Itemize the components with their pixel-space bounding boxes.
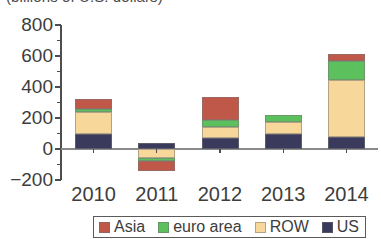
bar-segment-row[interactable] (75, 112, 112, 134)
bar-segment-euro-area[interactable] (265, 115, 302, 122)
legend-item[interactable]: ROW (255, 218, 309, 236)
bar-segment-euro-area[interactable] (75, 109, 112, 111)
y-axis-tick (55, 24, 61, 25)
legend-label: ROW (270, 218, 309, 236)
y-axis-tick (55, 86, 61, 87)
legend-swatch-icon (322, 222, 333, 233)
bar-segment-us[interactable] (202, 138, 239, 149)
legend-item[interactable]: Asia (99, 218, 145, 236)
y-axis-tick-label: 600 (21, 45, 53, 67)
bar-segment-euro-area[interactable] (328, 61, 365, 80)
bar-segment-row[interactable] (265, 122, 302, 134)
legend-item[interactable]: euro area (158, 218, 242, 236)
x-axis-tick-label: 2013 (261, 183, 306, 206)
chart-legend: Asiaeuro areaROWUS (93, 216, 366, 238)
chart-title: (billions of U.S. dollars) (6, 0, 163, 5)
legend-swatch-icon (158, 222, 169, 233)
y-axis-tick-label: 0 (42, 138, 53, 160)
bar-group[interactable] (202, 25, 239, 180)
y-axis-tick-label: −200 (10, 169, 53, 191)
legend-label: euro area (173, 218, 242, 236)
bar-group[interactable] (328, 25, 365, 180)
y-axis-tick (55, 148, 61, 149)
y-axis-tick (55, 179, 61, 180)
y-axis-minor-tick (57, 40, 61, 41)
y-axis-minor-tick (57, 164, 61, 165)
bar-segment-us[interactable] (75, 134, 112, 149)
bar-group[interactable] (265, 25, 302, 180)
bar-segment-us[interactable] (265, 134, 302, 150)
x-axis-tick (219, 149, 220, 153)
legend-swatch-icon (99, 222, 110, 233)
x-axis-tick (93, 149, 94, 153)
y-axis-minor-tick (57, 133, 61, 134)
bar-segment-row[interactable] (202, 127, 239, 139)
legend-item[interactable]: US (322, 218, 359, 236)
bar-segment-euro-area[interactable] (202, 120, 239, 127)
bar-segment-asia[interactable] (75, 99, 112, 109)
y-axis-labels: 8006004002000−200 (0, 25, 53, 180)
bar-segment-asia[interactable] (138, 161, 175, 170)
chart-figure: (billions of U.S. dollars) 8006004002000… (0, 0, 381, 239)
plot-area (62, 25, 378, 180)
x-axis-tick (156, 149, 157, 153)
y-axis-minor-tick (57, 71, 61, 72)
x-axis-tick (346, 149, 347, 153)
x-axis-tick-label: 2011 (135, 183, 178, 206)
bar-segment-asia[interactable] (328, 54, 365, 61)
x-axis-tick (283, 149, 284, 153)
y-axis-minor-tick (57, 102, 61, 103)
legend-swatch-icon (255, 222, 266, 233)
x-axis-tick-label: 2012 (198, 183, 243, 206)
x-axis-labels: 20102011201220132014 (62, 183, 378, 207)
legend-label: Asia (114, 218, 145, 236)
bar-segment-us[interactable] (328, 137, 365, 149)
x-axis-tick-label: 2014 (324, 183, 369, 206)
y-axis-tick (55, 117, 61, 118)
bar-segment-row[interactable] (328, 80, 365, 137)
y-axis-tick (55, 55, 61, 56)
legend-label: US (337, 218, 359, 236)
bar-group[interactable] (138, 25, 175, 180)
bar-segment-asia[interactable] (202, 97, 239, 119)
y-axis-tick-label: 800 (21, 14, 53, 36)
x-axis-tick-label: 2010 (71, 183, 116, 206)
y-axis-tick-label: 400 (21, 76, 53, 98)
bar-group[interactable] (75, 25, 112, 180)
y-axis-tick-label: 200 (21, 107, 53, 129)
